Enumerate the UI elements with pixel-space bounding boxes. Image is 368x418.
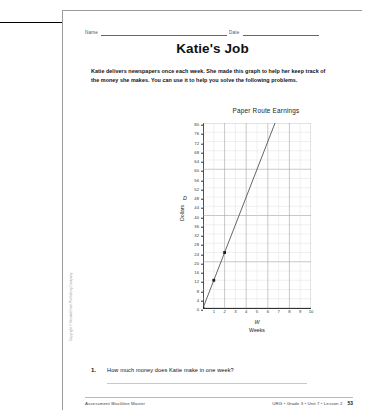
y-tick-label: 40: [194, 215, 199, 219]
question-number: 1.: [91, 367, 107, 373]
x-axis-title: Weeks: [203, 327, 311, 333]
question-1: 1. How much money does Katie make in one…: [91, 367, 341, 373]
y-tick-label: 28: [194, 243, 199, 247]
y-tick-label: 36: [194, 225, 199, 229]
y-tick-label: 76: [194, 132, 199, 136]
name-date-row: Name Date: [85, 25, 347, 37]
question-text: How much money does Katie make in one we…: [107, 367, 234, 373]
y-tick-label: 48: [194, 197, 199, 201]
x-tick-label: 9: [299, 310, 301, 314]
chart-title: Paper Route Earnings: [181, 107, 351, 114]
x-tick-label: 5: [256, 310, 258, 314]
intro-paragraph: Katie delivers newspapers once each week…: [91, 67, 335, 85]
x-tick-label: 8: [288, 310, 290, 314]
y-tick-label: 44: [194, 206, 199, 210]
footer-divider: [85, 397, 353, 398]
x-tick-label: 2: [223, 310, 225, 314]
y-tick-label: 4: [197, 299, 199, 303]
date-label: Date: [229, 31, 240, 37]
y-tick-label: 64: [194, 160, 199, 164]
date-input-line[interactable]: [243, 34, 319, 36]
y-tick-label: 60: [194, 169, 199, 173]
worksheet-page: Name Date Katie's Job Katie delivers new…: [0, 0, 368, 418]
data-point: [223, 251, 226, 254]
footer-left-text: Assessment Blackline Master: [85, 401, 145, 406]
x-tick-label: 1: [213, 310, 215, 314]
x-tick-label: 4: [245, 310, 247, 314]
y-tick-label: 80: [194, 123, 199, 127]
data-point: [212, 279, 215, 282]
footer-page-number: 53: [347, 401, 353, 406]
grid-and-series: [203, 123, 311, 308]
chart: Paper Route Earnings 0481216202428323640…: [181, 107, 351, 332]
footer-right: URG • Grade 3 • Unit 7 • Lesson 2 53: [272, 401, 353, 406]
page-sheet: Name Date Katie's Job Katie delivers new…: [62, 10, 362, 410]
name-input-line[interactable]: [101, 34, 227, 36]
footer: Assessment Blackline Master URG • Grade …: [85, 401, 353, 406]
x-tick-label: 3: [234, 310, 236, 314]
y-tick-label: 20: [194, 262, 199, 266]
name-label: Name: [85, 31, 98, 37]
plot-svg: [203, 123, 311, 308]
edge-rule: [0, 22, 62, 23]
page-title: Katie's Job: [63, 41, 362, 56]
y-tick-label: 68: [194, 151, 199, 155]
answer-line[interactable]: [107, 383, 307, 384]
plot-area: 048121620242832364044485256606468727680 …: [181, 121, 351, 321]
y-tick-label: 16: [194, 271, 199, 275]
y-tick-label: 56: [194, 178, 199, 182]
x-tick-label: 10: [309, 310, 314, 314]
y-tick-label: 24: [194, 252, 199, 256]
y-tick-label: 32: [194, 234, 199, 238]
x-tick-label: 6: [267, 310, 269, 314]
y-tick-label: 72: [194, 141, 199, 145]
footer-reference: URG • Grade 3 • Unit 7 • Lesson 2: [272, 401, 342, 406]
x-axis-variable: W: [203, 319, 311, 325]
y-tick-label: 8: [197, 289, 199, 293]
x-tick-label: 7: [277, 310, 279, 314]
y-axis-title: Dollars: [179, 205, 185, 221]
y-tick-label: 12: [194, 280, 199, 284]
y-tick-label: 52: [194, 188, 199, 192]
y-axis-variable: D: [183, 195, 187, 201]
y-tick-label: 0: [197, 308, 199, 312]
copyright-notice: Copyright © Kendall Hunt Publishing Comp…: [69, 273, 73, 342]
